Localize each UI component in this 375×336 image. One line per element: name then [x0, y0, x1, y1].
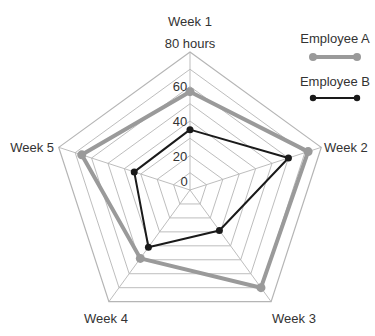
data-point-employee-a-week2	[304, 147, 313, 156]
legend-label-employee-b: Employee B	[300, 74, 370, 89]
axis-label-week5: Week 5	[10, 140, 54, 155]
data-point-employee-a-week5	[77, 150, 86, 159]
legend-item-employee-a: Employee A	[300, 31, 370, 61]
series-employee-a	[77, 87, 312, 292]
tick-label-20: 20	[173, 149, 187, 164]
tick-label-0: 0	[180, 174, 187, 189]
legend-marker-employee-b	[354, 95, 360, 101]
legend: Employee A Employee B	[300, 31, 370, 101]
legend-marker-employee-b	[310, 95, 316, 101]
tick-label-40: 40	[173, 114, 187, 129]
data-point-employee-b-week1	[187, 126, 194, 133]
axis-label-week3: Week 3	[272, 311, 316, 326]
data-point-employee-b-week3	[216, 227, 223, 234]
axis-label-week1: Week 1	[168, 14, 212, 29]
data-point-employee-b-week2	[285, 155, 292, 162]
legend-marker-employee-a	[353, 53, 361, 61]
legend-label-employee-a: Employee A	[300, 31, 370, 46]
data-point-employee-b-week5	[131, 168, 138, 175]
series-line-employee-a	[82, 92, 308, 288]
radar-chart: 0 20 40 60 80 hours Week 1 Week 2 Week 3…	[0, 0, 375, 336]
axis-label-week2: Week 2	[324, 140, 368, 155]
data-point-employee-a-week3	[256, 283, 265, 292]
series-employee-b	[131, 126, 292, 251]
series-layer	[77, 87, 312, 292]
legend-item-employee-b: Employee B	[300, 74, 370, 101]
data-point-employee-b-week4	[145, 244, 152, 251]
data-point-employee-a-week4	[136, 254, 145, 263]
axis-label-week4: Week 4	[84, 311, 128, 326]
legend-marker-employee-a	[309, 53, 317, 61]
tick-label-80: 80 hours	[165, 36, 216, 51]
tick-label-60: 60	[173, 79, 187, 94]
